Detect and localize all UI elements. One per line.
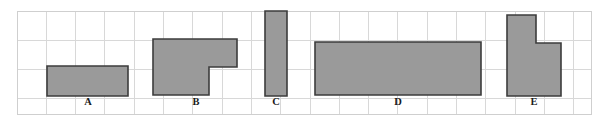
shape-b (153, 39, 237, 95)
shape-group (47, 11, 561, 96)
shape-label-b: B (192, 96, 199, 107)
shape-e (507, 15, 561, 96)
background-grid (17, 11, 591, 114)
shape-label-d: D (394, 96, 402, 107)
shape-c (265, 11, 287, 96)
shape-label-a: A (84, 96, 92, 107)
shape-label-group: ABCDE (84, 96, 537, 107)
shape-a (47, 66, 128, 96)
grid-shapes-diagram: ABCDE (0, 0, 599, 129)
figure-canvas: ABCDE (0, 0, 599, 129)
shape-label-c: C (272, 96, 280, 107)
shape-d (315, 42, 481, 95)
shape-label-e: E (530, 96, 537, 107)
